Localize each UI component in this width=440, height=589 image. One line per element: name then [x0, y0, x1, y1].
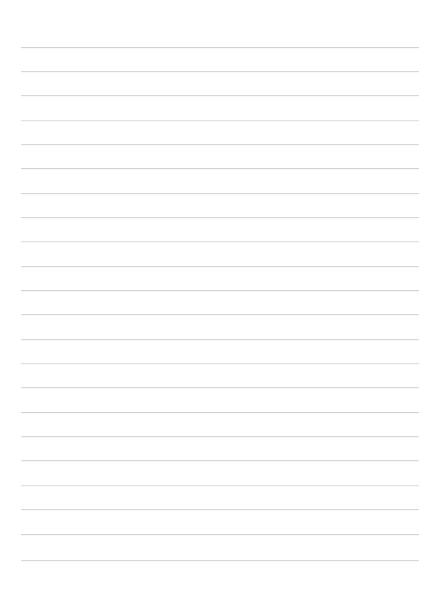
- rule-line-7: [21, 193, 419, 194]
- rule-line-1: [21, 47, 419, 48]
- rule-line-4: [21, 120, 419, 121]
- rule-line-9: [21, 241, 419, 242]
- rule-line-20: [21, 509, 419, 510]
- rule-line-16: [21, 412, 419, 413]
- rule-line-22: [21, 560, 419, 561]
- rule-line-10: [21, 266, 419, 267]
- rule-line-2: [21, 71, 419, 72]
- rule-line-12: [21, 314, 419, 315]
- rule-line-14: [21, 363, 419, 364]
- rule-line-5: [21, 144, 419, 145]
- rule-line-3: [21, 95, 419, 96]
- rule-line-18: [21, 460, 419, 461]
- rule-line-11: [21, 290, 419, 291]
- lined-paper-page: [0, 0, 440, 589]
- rule-line-13: [21, 339, 419, 340]
- rule-line-17: [21, 436, 419, 437]
- rule-line-21: [21, 534, 419, 535]
- rule-line-19: [21, 485, 419, 486]
- ruled-writing-area[interactable]: [0, 0, 440, 589]
- rule-line-8: [21, 217, 419, 218]
- rule-line-15: [21, 387, 419, 388]
- rule-line-6: [21, 168, 419, 169]
